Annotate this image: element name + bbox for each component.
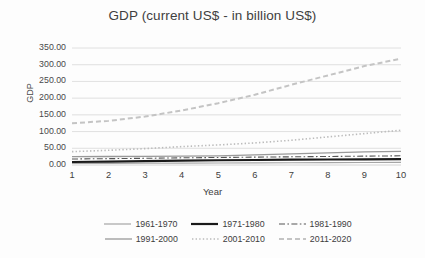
legend-row-top: 1961-19701971-19801981-1990 — [78, 216, 378, 231]
legend-swatch-icon — [279, 235, 306, 243]
legend-label: 1961-1970 — [135, 219, 177, 229]
legend-label: 1991-2000 — [136, 234, 178, 244]
legend-label: 2011-2020 — [310, 234, 351, 244]
legend-item[interactable]: 2011-2020 — [279, 234, 351, 244]
legend-label: 1981-1990 — [310, 219, 352, 229]
legend-swatch-icon — [105, 235, 132, 243]
legend-item[interactable]: 1961-1970 — [104, 219, 177, 229]
series-line — [72, 59, 401, 124]
legend-item[interactable]: 1971-1980 — [191, 219, 264, 229]
chart-legend: 1961-19701971-19801981-1990 1991-2000200… — [78, 216, 378, 246]
legend-swatch-icon — [192, 235, 219, 243]
gridlines — [72, 48, 401, 165]
series-lines — [72, 59, 401, 164]
legend-item[interactable]: 2001-2010 — [192, 234, 265, 244]
x-axis-title: Year — [0, 186, 425, 197]
legend-swatch-icon — [279, 220, 306, 228]
series-line — [72, 159, 401, 162]
gdp-line-chart: GDP (current US$ - in billion US$) GDP 3… — [0, 0, 425, 258]
legend-item[interactable]: 1991-2000 — [105, 234, 178, 244]
series-line — [72, 151, 401, 156]
legend-row-bottom: 1991-20002001-20102011-2020 — [78, 231, 378, 246]
legend-label: 1971-1980 — [222, 219, 264, 229]
legend-swatch-icon — [104, 220, 131, 228]
legend-swatch-icon — [191, 220, 218, 228]
legend-item[interactable]: 1981-1990 — [279, 219, 352, 229]
legend-label: 2001-2010 — [223, 234, 265, 244]
